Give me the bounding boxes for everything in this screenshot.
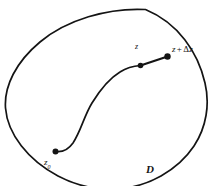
label-point-z-text: z: [135, 42, 138, 51]
label-point-z0: z0: [44, 158, 50, 167]
point-z-plus-delta-z-marker: [164, 53, 170, 59]
integration-curve-path: [56, 66, 141, 152]
label-domain-D: D: [146, 164, 154, 175]
label-z0-base: z: [44, 157, 48, 167]
domain-boundary-path: [5, 9, 207, 186]
domain-diagram-svg: [0, 0, 213, 186]
figure-canvas: z z+Δz z0 D: [0, 0, 213, 186]
point-z0-marker: [53, 149, 59, 155]
label-point-z-plus-delta-z: z+Δz: [172, 45, 193, 54]
label-delta-variable: z: [189, 44, 193, 54]
increment-segment-path: [141, 57, 168, 66]
label-domain-D-text: D: [146, 163, 154, 175]
label-point-z: z: [135, 43, 138, 51]
point-z-marker: [138, 63, 144, 69]
